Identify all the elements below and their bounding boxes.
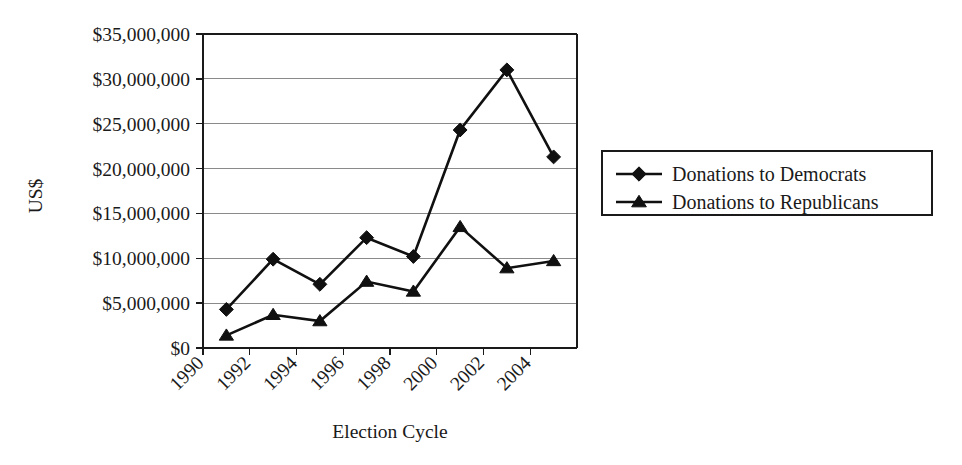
y-tick-label: $25,000,000 <box>93 114 191 135</box>
x-tick-label: 2000 <box>399 352 441 394</box>
data-point-marker <box>453 220 467 231</box>
x-tick-label: 1996 <box>306 352 349 395</box>
data-point-marker <box>547 150 561 164</box>
plot-frame <box>203 34 577 348</box>
x-tick-label: 1998 <box>352 352 394 394</box>
y-tick-label: $0 <box>171 338 191 359</box>
gridlines <box>203 79 577 303</box>
y-tick-label: $5,000,000 <box>102 293 190 314</box>
x-tick-label: 2002 <box>446 352 488 394</box>
y-tick-label: $20,000,000 <box>93 159 191 180</box>
data-point-marker <box>359 275 373 286</box>
x-axis-ticks: 19901992199419961998200020022004 <box>165 348 535 394</box>
y-axis-ticks: $0$5,000,000$10,000,000$15,000,000$20,00… <box>93 24 204 359</box>
legend-label: Donations to Republicans <box>672 191 879 214</box>
data-point-marker <box>546 254 560 265</box>
series-line <box>226 70 553 310</box>
data-point-marker <box>406 250 420 264</box>
series-republicans <box>219 220 561 340</box>
y-tick-label: $35,000,000 <box>93 24 191 45</box>
y-tick-label: $30,000,000 <box>93 69 191 90</box>
x-axis-title: Election Cycle <box>332 421 447 442</box>
x-tick-label: 1992 <box>212 352 254 394</box>
legend: Donations to DemocratsDonations to Repub… <box>602 151 932 215</box>
data-point-marker <box>266 308 280 319</box>
legend-label: Donations to Democrats <box>672 163 867 185</box>
x-tick-label: 1994 <box>259 352 302 395</box>
y-axis-title: US$ <box>25 178 46 213</box>
series-democrats <box>219 63 560 316</box>
x-tick-label: 2004 <box>493 352 536 395</box>
chart-figure: $0$5,000,000$10,000,000$15,000,000$20,00… <box>0 0 962 465</box>
y-tick-label: $10,000,000 <box>93 248 191 269</box>
series-group <box>219 63 561 340</box>
y-tick-label: $15,000,000 <box>93 203 191 224</box>
line-chart: $0$5,000,000$10,000,000$15,000,000$20,00… <box>0 0 962 465</box>
